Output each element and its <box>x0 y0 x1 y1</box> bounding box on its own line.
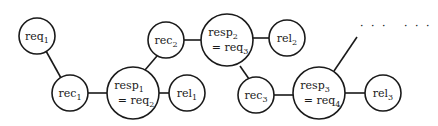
node-rec1: rec1 <box>52 75 88 111</box>
node-rel1: rel1 <box>169 75 205 111</box>
node-rel3: rel3 <box>365 75 401 111</box>
node-resp3: resp3 = req4 <box>293 67 345 119</box>
node-rec2: rec2 <box>148 22 184 58</box>
continuation-dots-1: · · · <box>360 20 387 33</box>
edge-resp2-rec3 <box>240 66 249 79</box>
edge-resp3-continuation <box>334 37 357 71</box>
svg-text:= req4: = req4 <box>304 94 341 109</box>
edge-resp1-rec2 <box>145 56 157 70</box>
svg-text:= req3: = req3 <box>212 41 249 56</box>
node-resp2: resp2 = req3 <box>201 14 253 66</box>
protocol-chain-diagram: req1 rec1 resp1 = req2 rel1 rec2 resp2 =… <box>0 0 438 126</box>
svg-text:= req2: = req2 <box>118 94 155 109</box>
node-rec3: rec3 <box>238 77 274 113</box>
node-req1: req1 <box>19 18 55 54</box>
edge-req1-rec1 <box>46 51 61 78</box>
node-resp1: resp1 = req2 <box>107 67 159 119</box>
continuation-dots-2: · · · <box>404 20 431 33</box>
node-rel2: rel2 <box>269 20 305 56</box>
